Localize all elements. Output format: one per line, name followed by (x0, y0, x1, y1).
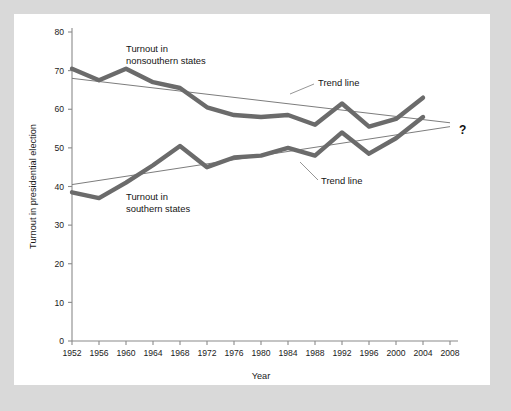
trend-label-upper-leader (290, 84, 314, 94)
x-tick-label: 1960 (116, 348, 135, 358)
y-tick-label: 80 (54, 27, 64, 37)
label-southern-line2: southern states (126, 203, 190, 214)
label-nonsouthern-line2: nonsouthern states (126, 55, 206, 66)
y-tick-label: 70 (54, 66, 64, 76)
trend-label-upper: Trend line (318, 77, 359, 88)
series-line-southern (72, 117, 423, 198)
x-tick-label: 1992 (332, 348, 351, 358)
label-nonsouthern-line1: Turnout in (126, 43, 168, 54)
future-unknown-label: ? (459, 123, 466, 137)
y-axis-title: Turnout in presidential election (28, 124, 38, 249)
y-tick-label: 40 (54, 182, 64, 192)
y-tick-label: 60 (54, 104, 64, 114)
chart-page: 0102030405060708019521956196019641968197… (0, 0, 511, 411)
x-tick-label: 1952 (62, 348, 81, 358)
x-tick-label: 2004 (413, 348, 432, 358)
y-tick-label: 30 (54, 220, 64, 230)
x-tick-label: 1976 (224, 348, 243, 358)
chart-panel: 0102030405060708019521956196019641968197… (14, 14, 490, 385)
x-tick-label: 1956 (89, 348, 108, 358)
x-tick-label: 1980 (251, 348, 270, 358)
x-tick-label: 1988 (305, 348, 324, 358)
y-tick-label: 10 (54, 298, 64, 308)
trend-label-lower: Trend line (321, 175, 362, 186)
y-tick-label: 20 (54, 259, 64, 269)
x-tick-label: 1964 (143, 348, 162, 358)
x-tick-label: 1972 (197, 348, 216, 358)
label-southern-line1: Turnout in (126, 191, 168, 202)
trend-label-lower-leader (300, 162, 318, 180)
y-tick-label: 0 (59, 336, 64, 346)
turnout-line-chart: 0102030405060708019521956196019641968197… (14, 14, 490, 385)
x-tick-label: 2000 (386, 348, 405, 358)
x-tick-label: 1984 (278, 348, 297, 358)
series-line-nonsouthern (72, 69, 423, 127)
x-tick-label: 1968 (170, 348, 189, 358)
x-axis-title: Year (252, 371, 271, 381)
x-tick-label: 1996 (359, 348, 378, 358)
x-tick-label: 2008 (440, 348, 459, 358)
y-tick-label: 50 (54, 143, 64, 153)
